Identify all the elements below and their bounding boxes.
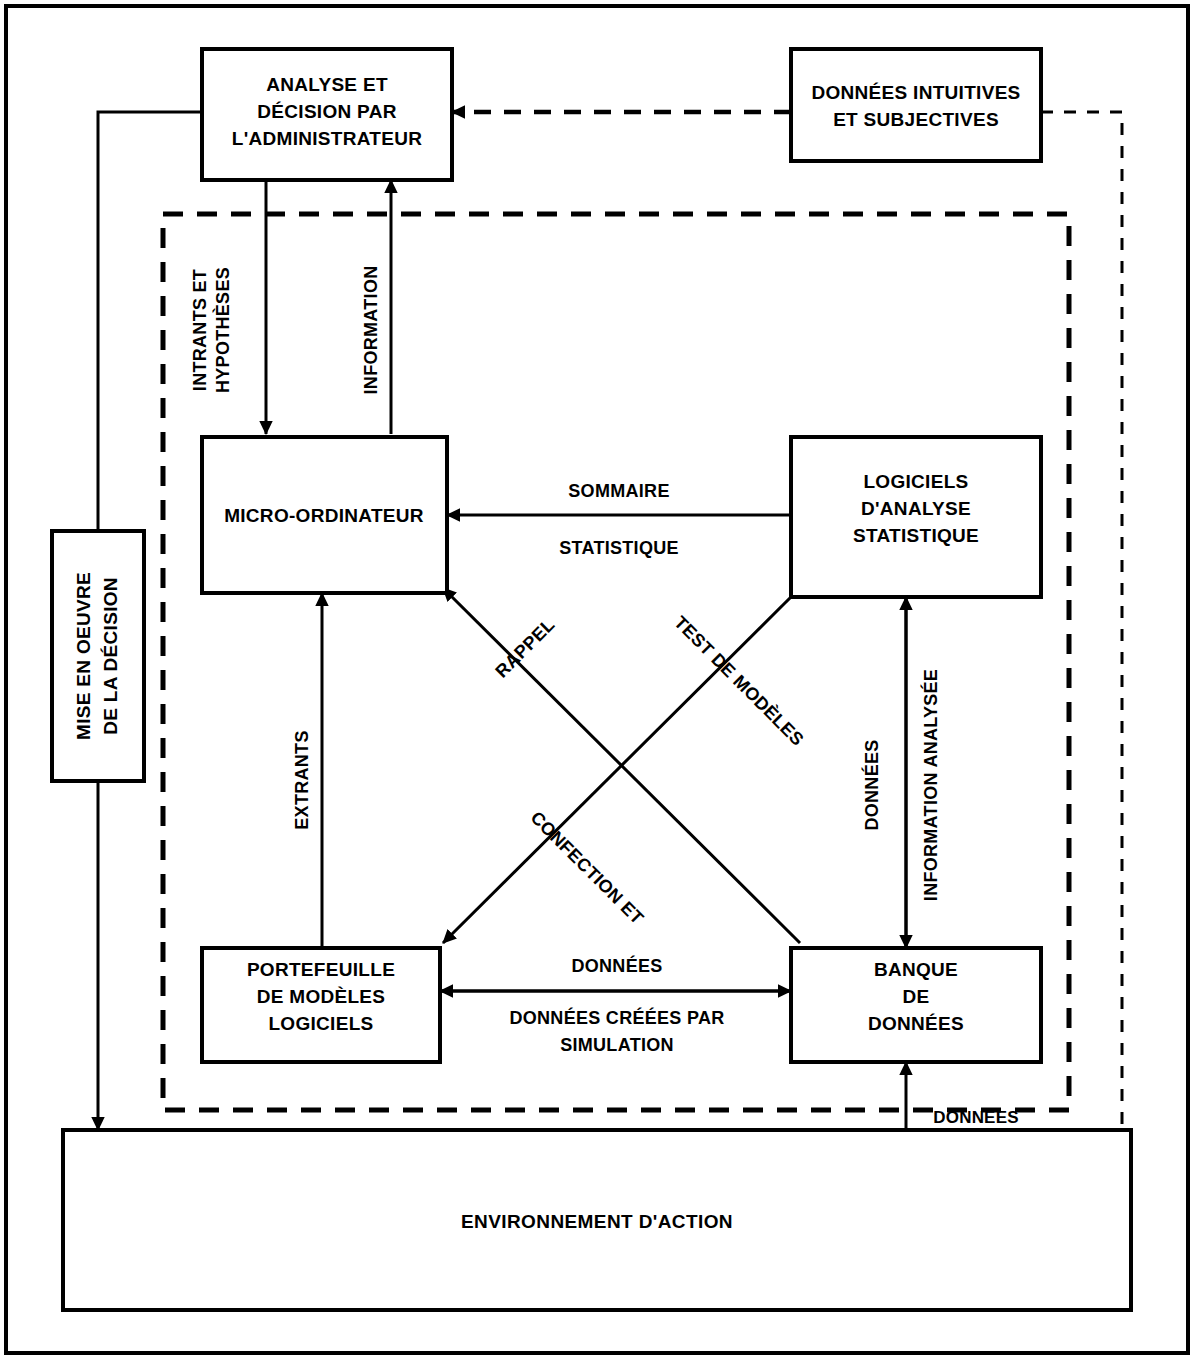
box-intuitive-line-2: ET SUBJECTIVES (833, 109, 999, 130)
box-environment-line-1: ENVIRONNEMENT D'ACTION (461, 1211, 733, 1232)
box-admin-line-3: L'ADMINISTRATEUR (232, 128, 423, 149)
box-admin-line-1: ANALYSE ET (266, 74, 388, 95)
label-intrants-line-1: INTRANTS ET (190, 269, 210, 391)
box-mise-en-oeuvre-decision[interactable] (52, 531, 144, 781)
label-donnees-vertical: DONNÉES (861, 739, 882, 830)
box-models-line-1: PORTEFEUILLE (247, 959, 395, 980)
box-databank-line-1: BANQUE (874, 959, 958, 980)
box-stats-line-2: D'ANALYSE (861, 498, 971, 519)
label-intrants-line-2: HYPOTHÈSES (212, 267, 233, 393)
box-micro-line-1: MICRO-ORDINATEUR (224, 505, 424, 526)
box-databank-line-3: DONNÉES (868, 1013, 964, 1034)
label-donnees-creees-line-1: DONNÉES CRÉÉES PAR (509, 1007, 724, 1028)
box-models-line-3: LOGICIELS (268, 1013, 373, 1034)
decision-support-system-diagram: ANALYSE ET DÉCISION PAR L'ADMINISTRATEUR… (0, 0, 1194, 1359)
label-information-analysee-group: INFORMATION ANALYSÉE (920, 669, 941, 901)
label-information: INFORMATION (361, 266, 381, 395)
box-models-line-2: DE MODÈLES (257, 986, 386, 1007)
box-decision-line-2: DE LA DÉCISION (100, 577, 121, 735)
label-donnees-horizontal: DONNÉES (571, 955, 662, 976)
box-stats-line-3: STATISTIQUE (853, 525, 979, 546)
label-donnees-bottom: DONNÉES (933, 1108, 1018, 1127)
diagram-canvas: ANALYSE ET DÉCISION PAR L'ADMINISTRATEUR… (0, 0, 1194, 1359)
label-information-analysee: INFORMATION ANALYSÉE (920, 669, 941, 901)
label-donnees-creees-line-2: SIMULATION (560, 1035, 674, 1055)
box-intuitive-line-1: DONNÉES INTUITIVES (811, 82, 1020, 103)
label-information-group: INFORMATION (361, 266, 381, 395)
box-decision-line-1: MISE EN OEUVRE (73, 572, 94, 740)
box-admin-line-2: DÉCISION PAR (257, 101, 396, 122)
box-donnees-intuitives-subjectives[interactable] (791, 49, 1041, 161)
label-extrants-group: EXTRANTS (292, 730, 312, 829)
label-extrants: EXTRANTS (292, 730, 312, 829)
box-stats-line-1: LOGICIELS (863, 471, 968, 492)
label-statistique: STATISTIQUE (559, 538, 679, 558)
label-sommaire: SOMMAIRE (568, 481, 669, 501)
box-databank-line-2: DE (903, 986, 930, 1007)
label-donnees-vertical-group: DONNÉES (861, 739, 882, 830)
